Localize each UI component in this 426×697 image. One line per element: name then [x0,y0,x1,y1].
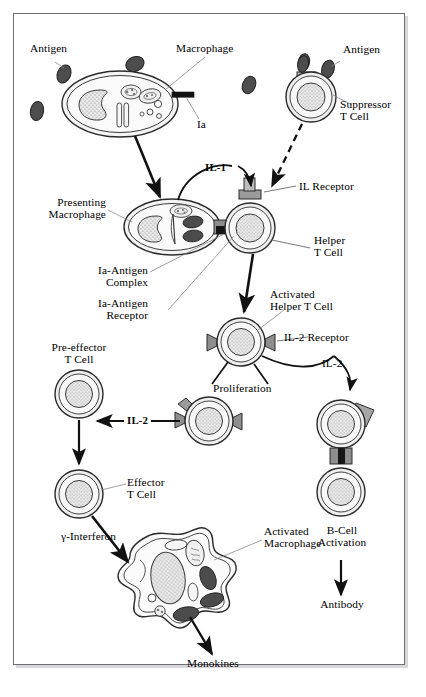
effector-t-cell [55,470,103,518]
label-il-receptor: IL Receptor [299,180,354,192]
presenting-macrophage-cell [124,199,234,255]
label-ia-antigen-receptor: Ia-AntigenReceptor [63,297,148,322]
label-monokines: Monokines [187,657,239,669]
label-macrophage: Macrophage [176,42,233,54]
label-presenting-macrophage: PresentingMacrophage [21,196,106,221]
helper-t-cell [225,178,275,253]
label-antigen-right: Antigen [343,43,380,55]
label-il-2-curve: IL-2 [322,357,342,369]
label-ia-antigen-complex: Ia-AntigenComplex [63,264,148,289]
b-cell [317,448,365,516]
label-il-2-receptor: IL-2 Receptor [284,331,349,343]
label-suppressor-t-cell: SuppressorT Cell [340,98,391,123]
label-ia: Ia [197,118,206,130]
label-pre-effector-t-cell: Pre-effectorT Cell [29,341,129,366]
pre-effector-t-cell [55,370,103,418]
label-effector-t-cell: EffectorT Cell [127,476,165,501]
diagram-canvas: Antigen Macrophage Antigen Ia Suppressor… [0,0,426,697]
label-gamma-interferon: γ-Interferon [61,530,116,542]
macrophage-cell [62,71,194,137]
label-proliferation: Proliferation [213,382,271,394]
label-il-1: IL-1 [205,161,226,173]
label-antibody: Antibody [296,598,388,610]
proliferating-t-cell [175,397,242,445]
label-helper-t-cell: HelperT Cell [314,234,345,259]
label-activated-helper-t-cell: ActivatedHelper T Cell [270,288,333,313]
label-il-2-arrow: IL-2 [124,414,151,426]
label-b-cell-activation: B-CellActivation [296,524,388,549]
il2-bound-t-cell [317,400,374,448]
label-antigen-left: Antigen [30,42,67,54]
activated-macrophage-cell [118,528,236,628]
